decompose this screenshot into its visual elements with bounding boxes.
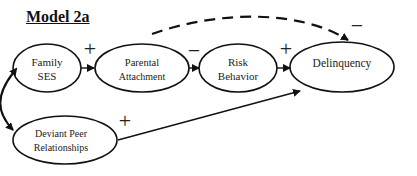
sign-label: + bbox=[280, 36, 292, 61]
sign-label: + bbox=[84, 36, 96, 61]
model-title: Model 2a bbox=[26, 8, 90, 26]
path-model-diagram: Model 2a Family SES Parental Attachment … bbox=[0, 0, 417, 176]
edge-family-to-parental: + bbox=[81, 36, 96, 68]
edge-family-deviant-correlation bbox=[0, 73, 13, 130]
node-label: SES bbox=[38, 70, 57, 82]
node-label: Parental bbox=[125, 57, 159, 68]
edge-deviant-to-delinquency: + bbox=[118, 91, 300, 140]
node-label: Risk bbox=[228, 56, 249, 68]
node-delinquency: Delinquency bbox=[290, 42, 394, 92]
node-deviant-peer: Deviant Peer Relationships bbox=[13, 116, 117, 164]
node-label: Attachment bbox=[119, 71, 166, 82]
node-label: Family bbox=[31, 56, 63, 68]
node-parental-attachment: Parental Attachment bbox=[95, 44, 189, 92]
node-label: Delinquency bbox=[313, 57, 372, 70]
node-risk-behavior: Risk Behavior bbox=[199, 44, 277, 92]
sign-label: − bbox=[351, 13, 363, 38]
sign-label: − bbox=[188, 38, 200, 63]
sign-label: + bbox=[119, 108, 131, 133]
edge-parental-to-delinquency-dashed: − bbox=[152, 13, 363, 40]
node-label: Relationships bbox=[34, 142, 89, 153]
diagram-canvas: Family SES Parental Attachment Risk Beha… bbox=[0, 0, 417, 176]
edge-parental-to-risk: − bbox=[188, 38, 200, 68]
node-label: Behavior bbox=[218, 70, 259, 82]
node-family-ses: Family SES bbox=[13, 44, 81, 92]
node-label: Deviant Peer bbox=[35, 128, 88, 139]
